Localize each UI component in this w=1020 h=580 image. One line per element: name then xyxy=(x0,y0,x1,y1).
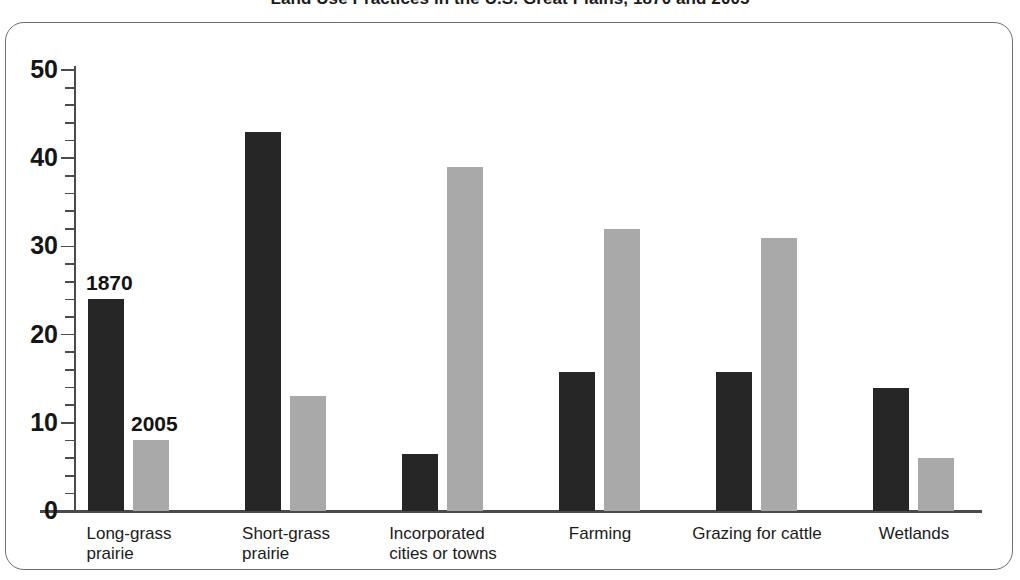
bar xyxy=(290,396,326,511)
bar xyxy=(559,372,595,511)
category-label: Farming xyxy=(569,524,631,544)
category-label: Short-grassprairie xyxy=(242,524,330,564)
bar xyxy=(402,454,438,511)
chart-plot-area: 01020304050 18702005 Long-grassprairieSh… xyxy=(0,0,1020,580)
bar xyxy=(133,440,169,511)
series-callout-1870: 1870 xyxy=(86,271,133,295)
category-label-line: Long-grass xyxy=(86,524,171,544)
bar xyxy=(873,388,909,511)
bar xyxy=(88,299,124,511)
series-callout-2005: 2005 xyxy=(131,412,178,436)
category-label: Long-grassprairie xyxy=(86,524,171,564)
category-label-line: prairie xyxy=(242,544,330,564)
bar xyxy=(447,167,483,511)
category-label: Wetlands xyxy=(879,524,950,544)
category-label-line: cities or towns xyxy=(389,544,497,564)
bar xyxy=(918,458,954,511)
bar xyxy=(716,372,752,511)
category-label-line: Grazing for cattle xyxy=(692,524,821,544)
bar xyxy=(761,238,797,511)
category-label-line: Wetlands xyxy=(879,524,950,544)
bar xyxy=(604,229,640,511)
category-label: Grazing for cattle xyxy=(692,524,821,544)
bar xyxy=(245,132,281,511)
category-label-line: Incorporated xyxy=(389,524,497,544)
category-label-line: prairie xyxy=(86,544,171,564)
category-label-line: Short-grass xyxy=(242,524,330,544)
category-label: Incorporatedcities or towns xyxy=(389,524,497,564)
category-label-line: Farming xyxy=(569,524,631,544)
